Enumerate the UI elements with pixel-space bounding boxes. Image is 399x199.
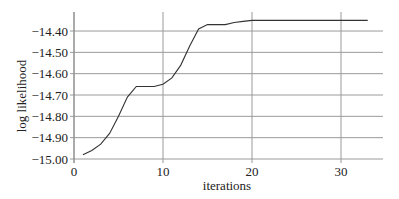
x-tick-label: 10 (157, 164, 170, 179)
y-tick-label: −14.50 (31, 45, 68, 60)
grid-lines (70, 12, 383, 163)
y-tick-label: −14.90 (31, 130, 68, 145)
log-likelihood-line (83, 20, 368, 154)
y-tick-label: −14.40 (31, 24, 68, 39)
x-tick-label: 0 (71, 164, 78, 179)
x-tick-label: 30 (335, 164, 348, 179)
x-axis-ticks: 0102030 (71, 164, 348, 179)
y-tick-label: −14.60 (31, 66, 68, 81)
y-tick-label: −14.80 (31, 109, 68, 124)
y-axis-title: log likelihood (14, 59, 29, 132)
y-axis-ticks: −15.00−14.90−14.80−14.70−14.60−14.50−14.… (31, 24, 68, 167)
y-tick-label: −15.00 (31, 152, 68, 167)
line-chart: −15.00−14.90−14.80−14.70−14.60−14.50−14.… (0, 0, 399, 199)
x-axis-title: iterations (203, 178, 251, 193)
x-tick-label: 20 (246, 164, 259, 179)
y-tick-label: −14.70 (31, 88, 68, 103)
